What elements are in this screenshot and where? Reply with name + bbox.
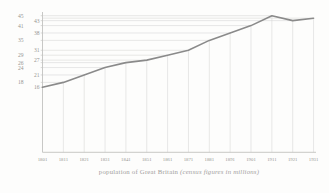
x-tick-label: 1871 bbox=[184, 157, 194, 162]
y-tick-label: 18 bbox=[18, 79, 24, 85]
x-tick-label: 1921 bbox=[288, 157, 298, 162]
y-tick-label: 29 bbox=[18, 52, 24, 58]
y-tick-label: 45 bbox=[18, 13, 24, 19]
caption-text: population of Great Britain bbox=[99, 168, 180, 175]
y-tick-label: 24 bbox=[18, 65, 24, 71]
y-tick-label: 41 bbox=[18, 23, 24, 29]
y-tick-label: 27 bbox=[34, 57, 40, 63]
y-tick-label: 35 bbox=[18, 37, 24, 43]
x-tick-label: 1841 bbox=[121, 157, 131, 162]
population-chart: 1801181118211831184118511861187118811891… bbox=[0, 0, 329, 193]
x-tick-label: 1891 bbox=[225, 157, 235, 162]
x-tick-label: 1801 bbox=[38, 157, 48, 162]
y-tick-label: 43 bbox=[34, 18, 40, 24]
population-data-line bbox=[43, 16, 314, 88]
x-tick-label: 1821 bbox=[79, 157, 89, 162]
x-tick-label: 1881 bbox=[205, 157, 215, 162]
y-tick-label: 21 bbox=[34, 72, 40, 78]
x-tick-label: 1861 bbox=[163, 157, 173, 162]
x-tick-label: 1901 bbox=[246, 157, 256, 162]
caption-text-italic: (census figures in millions) bbox=[180, 168, 259, 175]
x-tick-label: 1911 bbox=[267, 157, 277, 162]
chart-caption: population of Great Britain (census figu… bbox=[42, 168, 316, 175]
y-tick-label: 31 bbox=[34, 47, 40, 53]
population-line-chart-canvas: 1801181118211831184118511861187118811891… bbox=[0, 0, 329, 193]
x-tick-label: 1831 bbox=[100, 157, 110, 162]
x-tick-label: 1851 bbox=[142, 157, 152, 162]
y-tick-label: 16 bbox=[34, 84, 40, 90]
x-tick-label: 1811 bbox=[59, 157, 69, 162]
y-tick-label: 38 bbox=[34, 30, 40, 36]
x-tick-label: 1931 bbox=[309, 157, 319, 162]
